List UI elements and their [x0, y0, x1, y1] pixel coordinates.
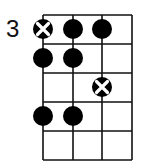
finger-dot — [33, 106, 53, 126]
finger-dot — [92, 19, 112, 39]
x-dot-marker — [33, 19, 53, 39]
finger-dot — [63, 106, 83, 126]
finger-dot — [63, 19, 83, 39]
finger-dot — [33, 48, 53, 68]
x-dot-marker — [92, 77, 112, 97]
chord-grid — [0, 0, 145, 162]
fretboard-lines — [43, 15, 132, 160]
finger-dot — [63, 48, 83, 68]
